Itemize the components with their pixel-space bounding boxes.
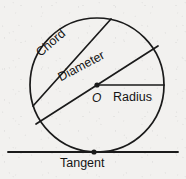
tangent-label: Tangent (60, 157, 104, 170)
radius-label: Radius (113, 91, 152, 104)
diagram-canvas (0, 0, 186, 179)
center-point-dot (94, 82, 99, 87)
center-label: O (92, 92, 101, 104)
tangency-point-dot (91, 149, 96, 154)
circle-parts-diagram: Chord Diameter Radius O Tangent (0, 0, 186, 179)
